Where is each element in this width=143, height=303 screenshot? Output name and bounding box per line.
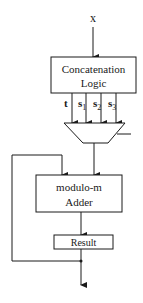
- multiplexer: [64, 123, 125, 143]
- input-label: x: [90, 11, 96, 25]
- concat-line2: Logic: [81, 77, 107, 89]
- signal-s2-label: s2: [93, 97, 101, 112]
- signal-s1-label: s1: [78, 97, 86, 112]
- result-label: Result: [71, 237, 97, 248]
- diagram-canvas: x Concatenation Logic t s1 s2 s3 modulo-…: [0, 0, 143, 303]
- signal-t-label: t: [64, 97, 68, 109]
- concat-line1: Concatenation: [62, 63, 126, 75]
- junction-dot: [80, 260, 83, 263]
- signal-s3-label: s3: [108, 97, 116, 112]
- adder-line1: modulo-m: [56, 181, 102, 193]
- adder-line2: Adder: [65, 196, 93, 208]
